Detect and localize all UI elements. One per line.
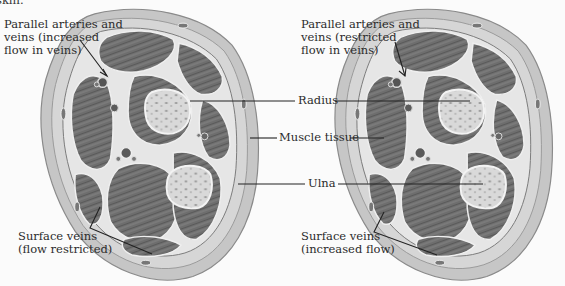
label-radius: Radius <box>298 94 338 107</box>
label-parallel-vessels-left: Parallel arteries and veins (increased f… <box>4 18 123 57</box>
label-surface-veins-right: Surface veins (increased flow) <box>301 230 395 256</box>
label-parallel-vessels-right: Parallel arteries and veins (restricted … <box>301 18 420 57</box>
label-muscle-tissue: Muscle tissue <box>279 131 359 144</box>
label-ulna: Ulna <box>308 177 336 190</box>
label-surface-veins-left: Surface veins (flow restricted) <box>18 230 112 256</box>
